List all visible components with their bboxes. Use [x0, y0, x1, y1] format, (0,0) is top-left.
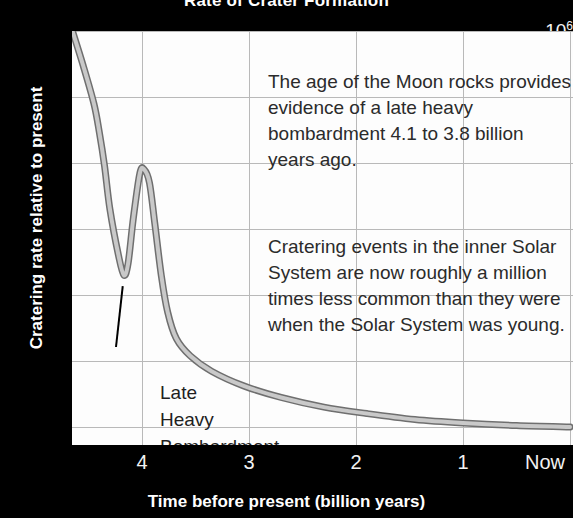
annotation-moon-rocks: The age of the Moon rocks provides evide…: [268, 69, 571, 173]
x-tick-label-now: Now: [525, 452, 565, 472]
annotation-late-heavy-bombardment: Late Heavy Bombardment: [160, 379, 279, 445]
annotation-cratering-rate: Cratering events in the inner Solar Syst…: [268, 234, 565, 338]
plot-area: The age of the Moon rocks provides evide…: [72, 31, 573, 445]
x-tick-label-2: 2: [350, 452, 361, 472]
x-tick-label-1: 1: [457, 452, 468, 472]
x-axis-title: Time before present (billion years): [0, 492, 573, 512]
chart-screenshot: Rate of Crater Formation Cratering rate …: [0, 0, 573, 518]
y-axis-title: Cratering rate relative to present: [27, 63, 47, 373]
chart-title: Rate of Crater Formation: [0, 0, 573, 11]
x-tick-label-3: 3: [243, 452, 254, 472]
x-tick-label-4: 4: [136, 452, 147, 472]
